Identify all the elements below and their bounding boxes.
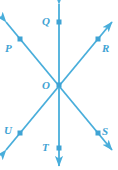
figure-canvas	[0, 0, 118, 170]
point-marker-O	[57, 83, 62, 88]
point-marker-S	[96, 131, 101, 136]
point-label-U: U	[4, 125, 12, 136]
point-label-P: P	[5, 43, 12, 54]
point-label-Q: Q	[42, 16, 50, 27]
point-marker-P	[18, 37, 23, 42]
point-label-S: S	[102, 126, 108, 137]
point-label-T: T	[42, 142, 49, 153]
point-label-O: O	[42, 80, 50, 91]
point-marker-T	[57, 146, 62, 151]
point-label-R: R	[102, 43, 109, 54]
point-marker-R	[96, 37, 101, 42]
geometry-figure: QPRUSTO	[0, 0, 118, 170]
point-marker-Q	[57, 20, 62, 25]
point-marker-U	[18, 131, 23, 136]
